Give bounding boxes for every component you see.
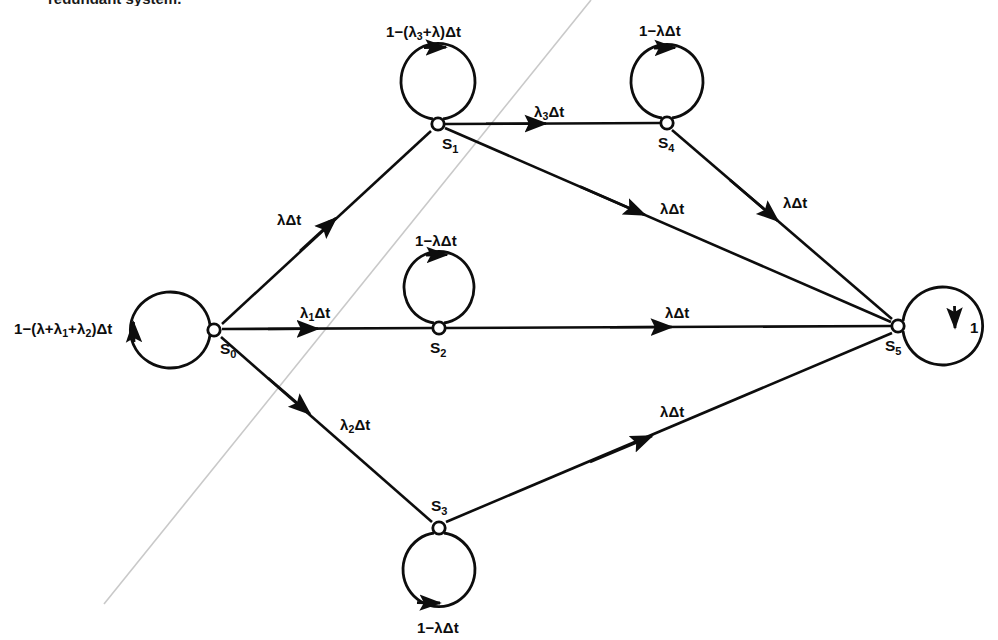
node-label-s2: S2 <box>430 340 446 356</box>
node-label-s0-text: S <box>220 340 230 357</box>
self-loop-label-s0-sub2: 2 <box>85 327 91 339</box>
edge-s0-s2 <box>222 328 432 329</box>
self-loop-s5-head <box>955 306 956 328</box>
self-loop-label-s0: 1−(λ+λ1+λ2)Δt <box>14 321 112 336</box>
edge-label-s0-s3: λ2Δt <box>340 417 370 432</box>
self-loop-label-s5-text: 1 <box>970 319 978 336</box>
node-label-s1-sub: 1 <box>452 143 458 155</box>
figure-caption-text: redundant system. <box>48 0 181 6</box>
node-label-s0-sub: 0 <box>230 348 236 360</box>
edge-label-s0-s1-text: λΔt <box>277 211 301 228</box>
self-loop-s4 <box>631 44 703 118</box>
self-loop-label-s2-text: 1−λΔt <box>415 232 457 249</box>
edge-s0-s3-head <box>268 378 310 414</box>
edge-s1-s5 <box>445 128 891 322</box>
self-loop-label-s1-sub1: 3 <box>417 30 423 42</box>
self-loop-s2 <box>404 251 474 323</box>
edge-s1-s5-head <box>580 187 645 216</box>
edge-label-s1-s4-tail: Δt <box>548 103 564 120</box>
self-loop-label-s0-prefix: 1−(λ+λ <box>14 320 62 337</box>
node-s1[interactable] <box>432 118 444 130</box>
edge-label-s3-s5-text: λΔt <box>660 403 684 420</box>
edge-label-s1-s5: λΔt <box>660 201 684 216</box>
self-loop-s1 <box>401 43 475 119</box>
node-s5[interactable] <box>892 320 904 332</box>
self-loop-label-s4: 1−λΔt <box>639 23 681 38</box>
node-label-s1-text: S <box>442 135 452 152</box>
edge-s0-s3 <box>221 337 432 522</box>
figure-caption: redundant system. <box>48 0 181 6</box>
self-loop-label-s0-sub1: 1 <box>62 327 68 339</box>
edge-s1-s4 <box>445 123 660 124</box>
node-s4[interactable] <box>661 117 673 129</box>
node-label-s1: S1 <box>442 136 458 152</box>
self-loop-s0-head <box>133 322 134 342</box>
self-loop-label-s1-prefix: 1−(λ <box>386 23 417 40</box>
figure-canvas: redundant system. S0 S1 S2 S3 S4 S5 λΔt … <box>0 0 998 640</box>
edge-label-s0-s3-sub: 2 <box>348 423 354 435</box>
node-s3[interactable] <box>433 522 445 534</box>
edge-label-s0-s1: λΔt <box>277 212 301 227</box>
node-label-s3: S3 <box>431 498 447 514</box>
edge-label-s2-s5-text: λΔt <box>665 304 689 321</box>
edge-label-s1-s4-sub: 3 <box>542 110 548 122</box>
scan-artifact-line <box>104 0 591 604</box>
node-label-s4-text: S <box>658 134 668 151</box>
edge-s3-s5 <box>446 333 892 522</box>
node-label-s0: S0 <box>220 341 236 357</box>
edge-label-s1-s4: λ3Δt <box>534 104 564 119</box>
edge-s4-s5 <box>672 130 892 319</box>
self-loop-label-s0-suffix: )Δt <box>91 320 112 337</box>
edge-label-s3-s5: λΔt <box>660 404 684 419</box>
node-label-s4: S4 <box>658 135 674 151</box>
node-label-s2-sub: 2 <box>440 347 446 359</box>
self-loop-label-s3: 1−λΔt <box>417 620 459 635</box>
edge-label-s0-s2: λ1Δt <box>300 305 330 320</box>
edge-label-s0-s2-tail: Δt <box>314 304 330 321</box>
node-label-s3-sub: 3 <box>441 505 447 517</box>
node-s0[interactable] <box>208 324 220 336</box>
self-loop-s3 <box>403 533 475 607</box>
self-loop-label-s3-text: 1−λΔt <box>417 619 459 636</box>
edge-label-s0-s3-tail: Δt <box>354 416 370 433</box>
node-label-s2-text: S <box>430 339 440 356</box>
edge-label-s2-s5: λΔt <box>665 305 689 320</box>
edge-label-s0-s2-sub: 1 <box>308 311 314 323</box>
edge-label-s1-s5-text: λΔt <box>660 200 684 217</box>
self-loop-label-s2: 1−λΔt <box>415 233 457 248</box>
self-loop-label-s4-text: 1−λΔt <box>639 22 681 39</box>
self-loop-label-s1-mid: +λ <box>423 23 440 40</box>
edge-s0-s1-head <box>300 218 336 251</box>
node-s2[interactable] <box>433 322 445 334</box>
diagram-svg <box>0 0 998 640</box>
self-loop-s0 <box>130 292 210 368</box>
edge-label-s4-s5: λΔt <box>783 195 807 210</box>
node-label-s5-sub: 5 <box>895 345 901 357</box>
edge-label-s4-s5-text: λΔt <box>783 194 807 211</box>
self-loop-label-s1: 1−(λ3+λ)Δt <box>386 24 461 39</box>
node-label-s3-text: S <box>431 497 441 514</box>
self-loop-label-s5: 1 <box>970 320 978 335</box>
node-label-s5-text: S <box>885 337 895 354</box>
node-label-s5: S5 <box>885 338 901 354</box>
edge-s3-s5-head <box>590 436 652 462</box>
edge-s4-s5-head <box>730 180 778 221</box>
self-loop-label-s1-suffix: )Δt <box>440 23 461 40</box>
self-loop-label-s0-mid: +λ <box>68 320 85 337</box>
node-label-s4-sub: 4 <box>668 142 674 154</box>
